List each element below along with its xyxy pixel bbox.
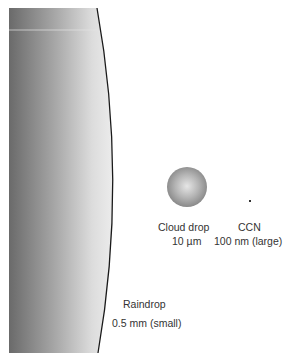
ccn-size: 100 nm (large)	[214, 235, 282, 248]
ccn-dot	[249, 200, 251, 202]
cloud-drop-label: Cloud drop	[158, 221, 209, 234]
ccn-label: CCN	[238, 221, 261, 234]
cloud-drop-size: 10 µm	[172, 235, 201, 248]
cloud-drop-circle	[167, 167, 207, 207]
raindrop-size: 0.5 mm (small)	[112, 317, 181, 330]
raindrop-label: Raindrop	[123, 298, 166, 311]
